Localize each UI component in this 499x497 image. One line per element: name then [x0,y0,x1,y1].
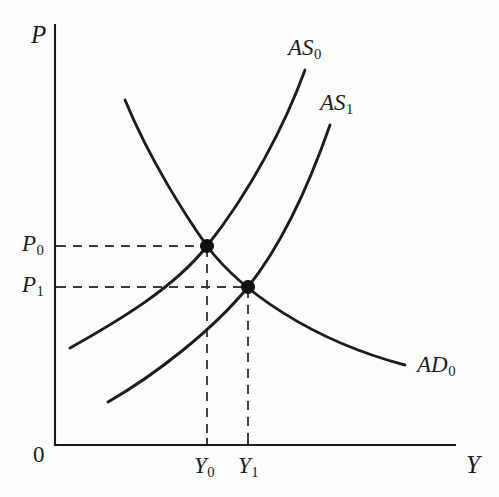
y-tick-label-p1-subscript: 1 [37,283,44,299]
curve-label-as1: AS1 [320,91,353,114]
y-tick-label-p0: P0 [22,232,43,255]
curve-label-as1-subscript: 1 [346,101,353,117]
y-axis-label: P [31,22,46,47]
origin-label: 0 [33,443,45,466]
curve-label-as0-subscript: 0 [314,46,321,62]
diagram-canvas [0,0,499,497]
curve-label-ad0: AD0 [417,353,455,376]
equilibrium-point-e0 [201,240,214,253]
curve-label-ad0-base: AD [417,352,448,377]
equilibrium-point-e1 [242,281,255,294]
x-tick-label-y0: Y0 [194,454,214,477]
x-tick-label-y0-base: Y [194,453,207,478]
y-tick-label-p0-subscript: 0 [37,242,44,258]
curve-ad0 [125,100,405,365]
curve-as0 [70,70,305,348]
x-tick-label-y1-subscript: 1 [251,464,258,480]
x-tick-label-y0-subscript: 0 [207,464,214,480]
curve-label-as0: AS0 [288,36,321,59]
curve-label-as1-base: AS [320,90,346,115]
y-tick-label-p1-base: P [22,272,36,297]
y-tick-label-p1: P1 [22,273,43,296]
curve-label-as0-base: AS [288,35,314,60]
x-tick-label-y1: Y1 [238,454,258,477]
as-ad-diagram: P Y 0 P0 P1 Y0 Y1 AS0 AS1 AD0 [0,0,499,497]
curve-label-ad0-subscript: 0 [448,363,455,379]
x-tick-label-y1-base: Y [238,453,251,478]
curve-as1 [108,125,330,402]
x-axis-label: Y [466,452,480,477]
y-tick-label-p0-base: P [22,231,36,256]
